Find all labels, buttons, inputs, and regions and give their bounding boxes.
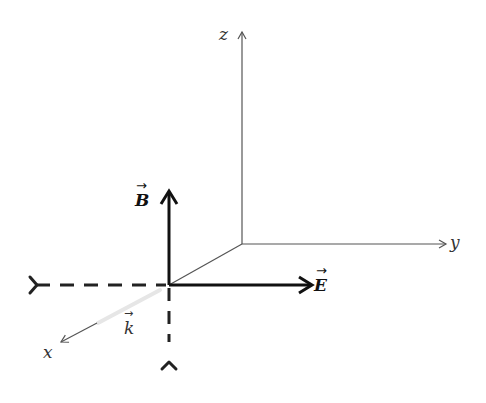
- e-vector-arrow-accent: →: [316, 263, 327, 278]
- bottom-chevron-icon: [162, 362, 176, 369]
- y-axis-label: y: [449, 232, 460, 252]
- e-vector-label: E: [313, 275, 328, 295]
- e-field-vector: [169, 277, 312, 293]
- x-axis-segment: [169, 244, 242, 285]
- b-vector-label: B: [134, 190, 149, 210]
- em-wave-diagram: z y x B → E → k →: [0, 0, 486, 403]
- b-vector-arrow-accent: →: [136, 178, 147, 193]
- x-axis: [61, 323, 97, 342]
- k-vector-label: k: [124, 318, 134, 338]
- k-vector-arrow-accent: →: [124, 307, 133, 320]
- diagram-canvas: z y x B → E → k →: [0, 0, 486, 403]
- z-axis-label: z: [218, 24, 229, 44]
- x-axis-label: x: [43, 342, 53, 362]
- left-chevron-icon: [30, 277, 37, 293]
- b-field-vector: [161, 191, 177, 285]
- coordinate-axes: [61, 32, 446, 342]
